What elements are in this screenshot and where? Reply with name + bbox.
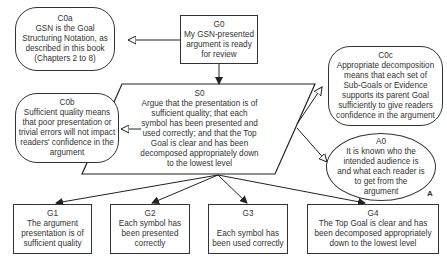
context-c0a: C0a GSN is the Goal Structuring Notation… bbox=[15, 7, 115, 71]
node-text: GSN is the Goal Structuring Notation, as… bbox=[22, 24, 108, 64]
goal-g2: G2 Each symbol has been presented correc… bbox=[110, 204, 190, 254]
node-id: G0 bbox=[214, 20, 225, 30]
context-c0c: C0c Appropriate decomposition means that… bbox=[328, 46, 443, 126]
node-text: The argument presentation is of sufficie… bbox=[21, 219, 83, 249]
edge-s0-g2 bbox=[152, 175, 218, 203]
assumption-a0: A0 It is known who the intended audience… bbox=[326, 133, 436, 201]
node-id: G2 bbox=[145, 209, 156, 219]
node-text: Each symbol has been used correctly bbox=[212, 219, 283, 249]
node-text: My GSN-presented argument is ready for r… bbox=[184, 30, 254, 60]
goal-g0: G0 My GSN-presented argument is ready fo… bbox=[180, 15, 258, 64]
node-text: Argue that the presentation is of suffic… bbox=[140, 99, 258, 169]
assumption-marker: A bbox=[427, 189, 433, 198]
node-text: The Top Goal is clear and has been decom… bbox=[315, 219, 432, 249]
edge-s0-g1 bbox=[56, 175, 218, 203]
node-id: S0 bbox=[194, 89, 204, 99]
node-id: G4 bbox=[368, 209, 379, 219]
goal-g3: G3 Each symbol has been used correctly bbox=[208, 204, 288, 254]
context-c0b: C0b Sufficient quality means that poor p… bbox=[15, 93, 119, 163]
node-id: C0a bbox=[57, 14, 72, 24]
edge-s0-a0 bbox=[297, 128, 327, 162]
node-text: It is known who the intended audience is… bbox=[337, 147, 424, 197]
node-id: C0b bbox=[59, 98, 74, 108]
strategy-s0: S0 Argue that the presentation is of suf… bbox=[112, 86, 287, 172]
node-text: Appropriate decomposition means that eac… bbox=[336, 61, 435, 121]
goal-g4: G4 The Top Goal is clear and has been de… bbox=[307, 204, 439, 254]
node-text: Each symbol has been presented correctly bbox=[119, 219, 181, 249]
node-id: C0c bbox=[378, 51, 393, 61]
goal-g1: G1 The argument presentation is of suffi… bbox=[13, 204, 92, 254]
node-id: A0 bbox=[376, 137, 386, 147]
node-id: G1 bbox=[47, 209, 58, 219]
node-text: Sufficient quality means that poor prese… bbox=[19, 108, 115, 158]
node-id: G3 bbox=[243, 209, 254, 219]
